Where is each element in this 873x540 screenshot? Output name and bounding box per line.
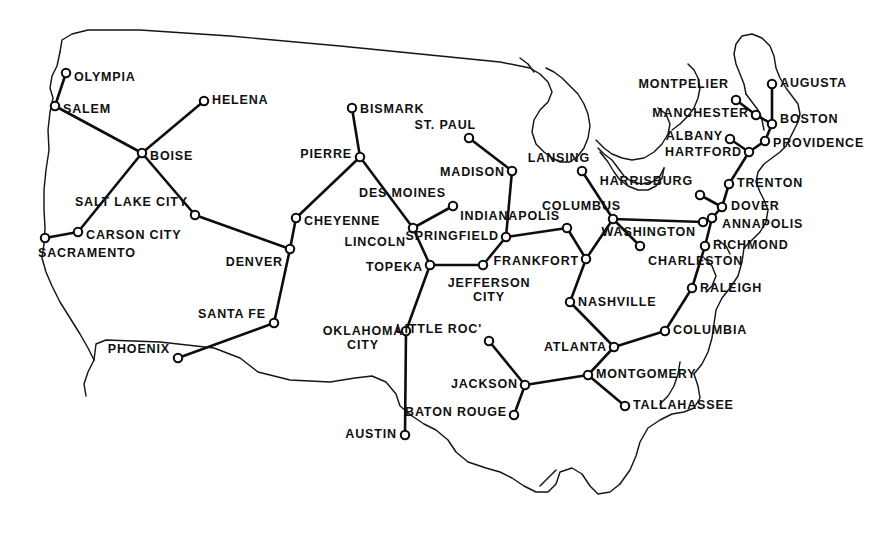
city-label-salem: SALEM bbox=[63, 103, 111, 117]
city-node-montgomery[interactable] bbox=[584, 371, 592, 379]
city-label-little-rock: LITTLE ROC' bbox=[396, 323, 482, 337]
city-node-lansing[interactable] bbox=[578, 167, 586, 175]
coastline-segment bbox=[620, 374, 700, 484]
city-label-boise: BOISE bbox=[150, 150, 193, 164]
city-label-annapolis: ANNAPOLIS bbox=[722, 218, 803, 232]
city-node-tallahassee[interactable] bbox=[621, 402, 629, 410]
city-label-atlanta: ATLANTA bbox=[544, 341, 607, 355]
city-node-jefferson-city[interactable] bbox=[479, 261, 487, 269]
city-label-montpelier: MONTPELIER bbox=[639, 78, 729, 92]
city-label-albany: ALBANY bbox=[666, 130, 723, 144]
city-node-jackson[interactable] bbox=[521, 381, 529, 389]
city-node-santa-fe[interactable] bbox=[270, 319, 278, 327]
city-node-phoenix[interactable] bbox=[174, 354, 182, 362]
city-label-phoenix: PHOENIX bbox=[108, 343, 170, 357]
city-node-baton-rouge[interactable] bbox=[510, 411, 518, 419]
city-label-salt-lake-city: SALT LAKE CITY bbox=[75, 196, 188, 210]
city-node-montpelier[interactable] bbox=[732, 96, 740, 104]
city-node-austin[interactable] bbox=[401, 431, 409, 439]
city-label-jefferson-city: JEFFERSON CITY bbox=[448, 277, 531, 304]
city-node-salt-lake-city[interactable] bbox=[191, 211, 199, 219]
route-edge-montgomery-jackson[interactable] bbox=[525, 375, 588, 385]
city-label-tallahassee: TALLAHASSEE bbox=[633, 399, 734, 413]
city-node-dover[interactable] bbox=[718, 203, 726, 211]
route-edge-boise-helena[interactable] bbox=[142, 101, 204, 153]
city-label-manchester: MANCHESTER bbox=[652, 107, 749, 121]
city-node-augusta[interactable] bbox=[768, 80, 776, 88]
city-node-washington[interactable] bbox=[699, 218, 707, 226]
city-node-carson-city[interactable] bbox=[74, 228, 82, 236]
city-node-madison[interactable] bbox=[508, 167, 516, 175]
city-node-boise[interactable] bbox=[138, 149, 146, 157]
city-label-columbus: COLUMBUS bbox=[542, 200, 621, 214]
city-node-salem[interactable] bbox=[51, 102, 59, 110]
city-node-providence[interactable] bbox=[761, 137, 769, 145]
route-edge-boise-carson-city[interactable] bbox=[78, 153, 142, 232]
city-label-helena: HELENA bbox=[212, 94, 269, 108]
city-node-pierre[interactable] bbox=[356, 153, 364, 161]
city-node-albany[interactable] bbox=[726, 135, 734, 143]
city-label-lincoln: LINCOLN bbox=[345, 236, 407, 250]
city-label-st-paul: ST. PAUL bbox=[415, 119, 476, 133]
city-node-olympia[interactable] bbox=[62, 69, 70, 77]
city-label-boston: BOSTON bbox=[780, 113, 838, 127]
city-label-springfield: SPRINGFIELD bbox=[406, 230, 499, 244]
coastline-segment bbox=[94, 340, 620, 494]
city-node-bismark[interactable] bbox=[348, 104, 356, 112]
city-node-topeka[interactable] bbox=[426, 261, 434, 269]
city-node-frankfort[interactable] bbox=[582, 255, 590, 263]
city-node-denver[interactable] bbox=[286, 245, 294, 253]
city-node-charleston[interactable] bbox=[636, 242, 644, 250]
city-node-des-moines[interactable] bbox=[449, 202, 457, 210]
route-edge-pierre-bismark[interactable] bbox=[352, 108, 360, 157]
city-label-carson-city: CARSON CITY bbox=[86, 229, 181, 243]
city-label-baton-rouge: BATON ROUGE bbox=[405, 406, 507, 420]
coastline-segment bbox=[60, 30, 530, 68]
city-node-manchester[interactable] bbox=[752, 111, 760, 119]
city-label-denver: DENVER bbox=[226, 256, 283, 270]
city-label-augusta: AUGUSTA bbox=[780, 77, 847, 91]
city-label-raleigh: RALEIGH bbox=[700, 282, 762, 296]
route-edge-lincoln-des-moines[interactable] bbox=[413, 206, 453, 228]
city-label-columbia: COLUMBIA bbox=[673, 324, 747, 338]
city-node-little-rock[interactable] bbox=[485, 337, 493, 345]
city-label-jackson: JACKSON bbox=[451, 378, 518, 392]
route-edge-springfield-madison[interactable] bbox=[506, 171, 512, 237]
city-label-harrisburg: HARRISBURG bbox=[600, 175, 693, 189]
route-edge-columbus-washington[interactable] bbox=[613, 219, 703, 222]
city-node-st-paul[interactable] bbox=[465, 134, 473, 142]
city-node-columbia[interactable] bbox=[661, 327, 669, 335]
city-label-topeka: TOPEKA bbox=[366, 261, 423, 275]
city-node-boston[interactable] bbox=[768, 120, 776, 128]
city-node-sacramento[interactable] bbox=[41, 234, 49, 242]
city-node-columbus[interactable] bbox=[609, 215, 617, 223]
city-label-olympia: OLYMPIA bbox=[74, 71, 136, 85]
city-node-hartford[interactable] bbox=[745, 148, 753, 156]
city-label-madison: MADISON bbox=[440, 166, 505, 180]
coastline-segment bbox=[530, 68, 590, 162]
city-node-helena[interactable] bbox=[200, 97, 208, 105]
route-edge-atlanta-columbia[interactable] bbox=[614, 331, 665, 347]
route-edge-topeka-oklahoma-city[interactable] bbox=[406, 265, 430, 331]
city-label-cheyenne: CHEYENNE bbox=[304, 215, 380, 229]
city-node-raleigh[interactable] bbox=[688, 284, 696, 292]
city-node-richmond[interactable] bbox=[701, 242, 709, 250]
city-node-annapolis[interactable] bbox=[708, 214, 716, 222]
city-node-indianapolis[interactable] bbox=[563, 224, 571, 232]
city-node-nashville[interactable] bbox=[566, 298, 574, 306]
city-label-lansing: LANSING bbox=[528, 152, 590, 166]
city-label-frankfort: FRANKFORT bbox=[494, 255, 579, 269]
city-label-dover: DOVER bbox=[731, 200, 780, 214]
city-node-springfield[interactable] bbox=[502, 233, 510, 241]
city-node-cheyenne[interactable] bbox=[292, 214, 300, 222]
city-node-harrisburg[interactable] bbox=[696, 191, 704, 199]
route-edge-cheyenne-pierre[interactable] bbox=[296, 157, 360, 218]
city-label-austin: AUSTIN bbox=[345, 428, 397, 442]
city-node-trenton[interactable] bbox=[725, 180, 733, 188]
city-label-richmond: RICHMOND bbox=[713, 239, 789, 253]
city-label-nashville: NASHVILLE bbox=[578, 296, 657, 310]
route-edge-springfield-indianapolis[interactable] bbox=[506, 228, 567, 237]
city-node-atlanta[interactable] bbox=[610, 343, 618, 351]
city-label-montgomery: MONTGOMERY bbox=[596, 368, 696, 382]
route-edge-salt-lake-city-denver[interactable] bbox=[195, 215, 290, 249]
